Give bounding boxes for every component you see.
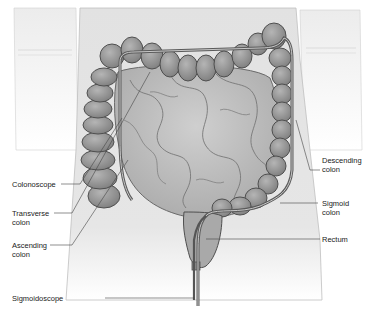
label-rectum: Rectum xyxy=(322,235,348,244)
left-arm xyxy=(14,8,78,150)
label-transverse-colon: Transverse colon xyxy=(12,209,49,227)
right-arm xyxy=(300,10,362,150)
label-ascending-colon: Ascending colon xyxy=(12,241,47,259)
label-sigmoid-colon: Sigmoid colon xyxy=(322,199,349,217)
label-sigmoidoscope: Sigmoidoscope xyxy=(12,294,63,303)
label-colonoscope: Colonoscope xyxy=(12,180,56,189)
colon-illustration: Colonoscope Transverse colon Ascending c… xyxy=(0,0,374,315)
label-descending-colon: Descending colon xyxy=(322,156,362,174)
anatomy-drawing xyxy=(0,0,374,315)
